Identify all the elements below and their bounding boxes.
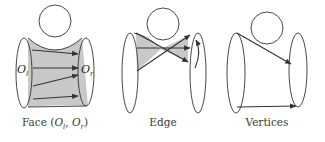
label-left-base: O xyxy=(17,63,26,76)
caption-face-suffix: ) xyxy=(84,116,88,128)
label-right-base: O xyxy=(81,63,90,76)
edge-sphere-circle xyxy=(147,8,179,40)
vertices-panel xyxy=(227,12,307,113)
edge-panel xyxy=(122,8,206,113)
face-label-right: Or xyxy=(81,63,93,78)
vertices-left-ellipse xyxy=(227,33,245,113)
edge-left-ellipse xyxy=(122,33,138,113)
caption-face-prefix: Face ( xyxy=(22,116,54,128)
label-left-sub: l xyxy=(26,70,28,78)
caption-face: Face (Ol, Or) xyxy=(22,116,88,131)
vertices-right-ellipse xyxy=(289,33,307,107)
vertices-sphere-circle xyxy=(251,12,283,44)
label-right-sub: r xyxy=(90,70,93,78)
caption-edge: Edge xyxy=(149,116,176,128)
face-shaded-surface xyxy=(28,38,88,107)
caption-face-o1: O xyxy=(54,116,63,128)
caption-face-sep: , xyxy=(65,116,72,128)
caption-vertices: Vertices xyxy=(246,116,289,128)
caption-face-o2: O xyxy=(72,116,81,128)
face-sphere-circle xyxy=(39,5,71,37)
face-label-left: Ol xyxy=(17,63,28,78)
edge-rotation-arrow xyxy=(195,40,199,68)
face-panel xyxy=(16,5,94,108)
vertices-arrow-bottom xyxy=(237,106,296,107)
